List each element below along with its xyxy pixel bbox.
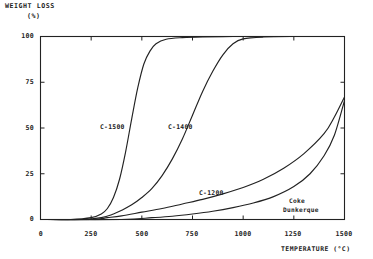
axis-ticks bbox=[41, 37, 345, 220]
plot-area bbox=[0, 0, 373, 259]
data-curves bbox=[41, 36, 345, 219]
series-curve-c-1500 bbox=[41, 36, 345, 219]
plot-border bbox=[41, 37, 345, 220]
chart-figure: WEIGHT LOSS(%) TEMPERATURE (°C) 100 75 5… bbox=[0, 0, 373, 259]
plot-frame bbox=[41, 37, 345, 220]
series-curve-c-1400 bbox=[41, 36, 345, 219]
